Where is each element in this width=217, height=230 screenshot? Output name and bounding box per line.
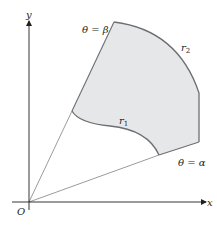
theta-alpha-label: θ = α xyxy=(178,157,206,168)
polar-region-diagram: y x O θ = β θ = α r2 r1 xyxy=(0,0,217,230)
ray-theta-alpha-inner xyxy=(29,155,159,202)
x-axis-label: x xyxy=(207,197,213,208)
ray-theta-beta-inner xyxy=(29,111,72,202)
y-axis-label: y xyxy=(25,9,32,20)
shaded-region xyxy=(72,22,199,155)
r2-label-sub: 2 xyxy=(186,47,190,55)
origin-label: O xyxy=(17,206,25,217)
theta-beta-label: θ = β xyxy=(82,24,109,35)
r1-label-sub: 1 xyxy=(124,120,128,128)
r2-label: r2 xyxy=(181,42,190,55)
